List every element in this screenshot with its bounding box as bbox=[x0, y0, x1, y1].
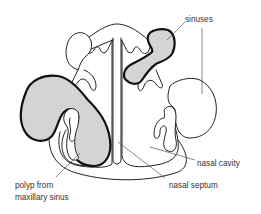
label-nasal-septum: nasal septum bbox=[169, 181, 218, 190]
left-frontal-sinus bbox=[66, 33, 92, 70]
label-polyp-line2: maxillary sinus bbox=[15, 193, 69, 202]
label-sinuses: sinuses bbox=[185, 15, 213, 24]
nasal-polyp-diagram: sinuses nasal cavity nasal septum polyp … bbox=[0, 0, 261, 214]
nasal-septum-shape bbox=[113, 38, 121, 164]
nasal-septum-leader-line bbox=[118, 142, 165, 178]
right-turbinate bbox=[154, 106, 176, 151]
right-sinus-grey bbox=[124, 29, 175, 84]
label-nasal-cavity: nasal cavity bbox=[197, 159, 241, 168]
ethmoid-roof bbox=[84, 24, 150, 53]
label-polyp-line1: polyp from bbox=[15, 181, 53, 190]
